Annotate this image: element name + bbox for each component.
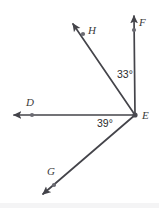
bottom-strip: [0, 203, 159, 208]
vertex-dot-e: [132, 112, 137, 117]
point-dot-h: [81, 32, 85, 36]
geometry-figure: F H D E G 33° 39°: [0, 0, 159, 208]
point-label-h: H: [88, 25, 96, 36]
point-label-g: G: [47, 166, 55, 177]
geometry-canvas: [0, 0, 159, 208]
angle-label-feh: 33°: [117, 69, 133, 80]
point-label-e: E: [142, 110, 149, 121]
point-dot-g: [52, 183, 56, 187]
ray-eg: [43, 115, 135, 194]
point-dot-f: [132, 28, 136, 32]
angle-label-deg: 39°: [97, 118, 113, 129]
point-label-f: F: [139, 17, 146, 28]
point-label-d: D: [26, 97, 34, 108]
point-dot-d: [30, 113, 34, 117]
